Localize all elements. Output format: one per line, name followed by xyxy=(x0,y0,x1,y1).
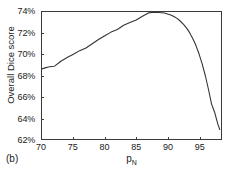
y-tick-mark xyxy=(41,97,44,98)
data-curve xyxy=(42,12,221,139)
y-tick-label: 72% xyxy=(18,28,35,37)
x-tick-label: 70 xyxy=(36,143,46,152)
y-tick-label: 66% xyxy=(18,93,35,102)
y-tick-mark xyxy=(41,33,44,34)
chart-figure: Overall Dice score 62%64%66%68%70%72%74%… xyxy=(0,0,229,169)
y-tick-label: 62% xyxy=(18,136,35,145)
x-tick-label: 95 xyxy=(195,143,205,152)
x-axis-title: pN xyxy=(41,153,222,166)
y-tick-mark xyxy=(41,54,44,55)
x-tick-mark xyxy=(105,137,106,140)
y-tick-mark xyxy=(41,119,44,120)
x-tick-mark xyxy=(168,137,169,140)
y-tick-label: 74% xyxy=(18,7,35,16)
x-tick-mark xyxy=(200,137,201,140)
x-tick-label: 85 xyxy=(131,143,141,152)
x-tick-label: 80 xyxy=(99,143,109,152)
y-tick-label: 64% xyxy=(18,114,35,123)
y-tick-mark xyxy=(41,76,44,77)
x-tick-mark xyxy=(136,137,137,140)
x-tick-label: 90 xyxy=(163,143,173,152)
y-tick-label: 70% xyxy=(18,50,35,59)
x-axis-title-subscript: N xyxy=(132,159,137,166)
y-tick-label: 68% xyxy=(18,71,35,80)
x-tick-mark xyxy=(73,137,74,140)
y-axis-tick-labels: 62%64%66%68%70%72%74% xyxy=(0,11,38,140)
plot-area xyxy=(41,11,222,140)
x-tick-label: 75 xyxy=(68,143,78,152)
panel-label: (b) xyxy=(6,153,18,164)
